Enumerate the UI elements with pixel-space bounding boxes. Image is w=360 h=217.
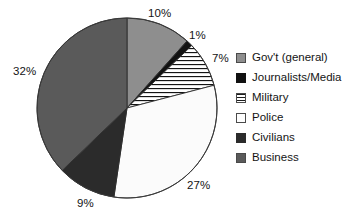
- legend-swatch-military-icon: [236, 93, 246, 103]
- slice-value-mil: 7%: [212, 53, 229, 65]
- legend-item-gov[interactable]: Gov't (general): [236, 48, 360, 67]
- legend-label-civilians: Civilians: [252, 132, 295, 144]
- legend-item-journalists[interactable]: Journalists/Media: [236, 68, 360, 87]
- legend-swatch-journalists-icon: [236, 73, 246, 83]
- pie-chart: 10% 1% 7% 27% 9% 32% Gov't (general) Jou…: [0, 0, 360, 217]
- legend-item-business[interactable]: Business: [236, 148, 360, 167]
- slice-value-police: 27%: [187, 180, 210, 192]
- legend-item-civilians[interactable]: Civilians: [236, 128, 360, 147]
- legend-label-gov: Gov't (general): [252, 52, 328, 64]
- legend-label-journalists: Journalists/Media: [252, 72, 341, 84]
- slice-value-journ: 1%: [189, 30, 206, 42]
- legend-label-police: Police: [252, 112, 283, 124]
- legend-item-military[interactable]: Military: [236, 88, 360, 107]
- legend-swatch-civilians-icon: [236, 133, 246, 143]
- slice-value-civ: 9%: [77, 198, 94, 210]
- slice-value-bus: 32%: [13, 66, 36, 78]
- legend-swatch-gov-icon: [236, 53, 246, 63]
- legend: Gov't (general) Journalists/Media Milita…: [236, 48, 360, 168]
- legend-swatch-police-icon: [236, 113, 246, 123]
- slice-value-gov: 10%: [148, 8, 171, 20]
- legend-swatch-business-icon: [236, 153, 246, 163]
- legend-label-military: Military: [252, 92, 288, 104]
- pie-graphic: 10% 1% 7% 27% 9% 32%: [0, 0, 232, 217]
- legend-label-business: Business: [252, 152, 299, 164]
- legend-item-police[interactable]: Police: [236, 108, 360, 127]
